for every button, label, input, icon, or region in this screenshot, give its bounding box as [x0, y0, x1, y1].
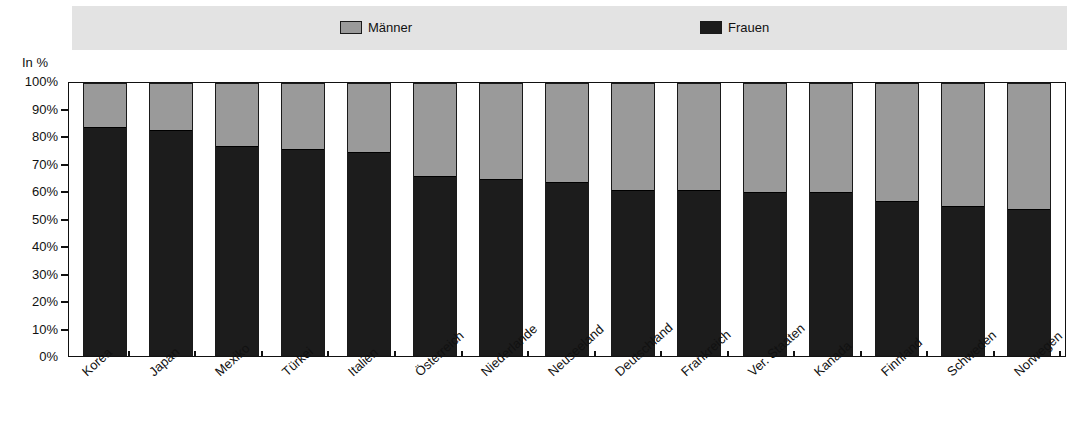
x-axis-tick-mark	[926, 351, 928, 357]
bar-column[interactable]	[545, 83, 589, 356]
y-axis-tick-label: 80%	[32, 129, 58, 144]
y-axis-tick-label: 20%	[32, 294, 58, 309]
bar-segment-frauen[interactable]	[216, 146, 258, 355]
bar-column[interactable]	[149, 83, 193, 356]
bar-column[interactable]	[83, 83, 127, 356]
x-axis-tick-mark	[128, 351, 130, 357]
legend-item-maenner: Männer	[340, 19, 412, 35]
bar-segment-maenner[interactable]	[545, 83, 589, 356]
bar-segment-maenner[interactable]	[347, 83, 391, 356]
bar-segment-frauen[interactable]	[414, 176, 456, 355]
bar-column[interactable]	[611, 83, 655, 356]
bar-column[interactable]	[941, 83, 985, 356]
bar-segment-frauen[interactable]	[1008, 209, 1050, 355]
legend-item-frauen: Frauen	[700, 19, 769, 35]
y-axis-tick-label: 60%	[32, 184, 58, 199]
y-axis-tick-label: 40%	[32, 239, 58, 254]
bar-segment-maenner[interactable]	[941, 83, 985, 356]
x-axis-tick-mark	[194, 351, 196, 357]
bar-segment-maenner[interactable]	[1007, 83, 1051, 356]
legend-swatch-maenner-icon	[340, 21, 362, 34]
y-axis-tick-mark	[61, 191, 68, 193]
bar-column[interactable]	[281, 83, 325, 356]
legend-swatch-frauen-icon	[700, 21, 722, 34]
legend-label-maenner: Männer	[368, 21, 412, 34]
bar-column[interactable]	[413, 83, 457, 356]
y-axis-tick-mark	[61, 301, 68, 303]
bar-column[interactable]	[677, 83, 721, 356]
bar-segment-maenner[interactable]	[743, 83, 787, 356]
x-axis-tick-mark	[527, 351, 529, 357]
bar-segment-maenner[interactable]	[413, 83, 457, 356]
y-axis-tick-label: 10%	[32, 322, 58, 337]
y-axis-tick-mark	[61, 219, 68, 221]
x-axis-tick-mark	[793, 351, 795, 357]
bar-segment-maenner[interactable]	[611, 83, 655, 356]
bar-segment-frauen[interactable]	[744, 192, 786, 355]
legend-band: Männer Frauen	[72, 6, 1067, 50]
bar-segment-frauen[interactable]	[678, 190, 720, 355]
bar-segment-frauen[interactable]	[480, 179, 522, 355]
bar-segment-maenner[interactable]	[281, 83, 325, 356]
x-axis-tick-mark	[394, 351, 396, 357]
bar-segment-frauen[interactable]	[876, 201, 918, 355]
plot-area	[68, 82, 1066, 357]
y-axis-tick-mark	[61, 109, 68, 111]
y-axis-tick-mark	[61, 164, 68, 166]
bar-segment-frauen[interactable]	[150, 130, 192, 355]
bar-column[interactable]	[1007, 83, 1051, 356]
bar-segment-frauen[interactable]	[810, 192, 852, 355]
bar-segment-frauen[interactable]	[546, 182, 588, 355]
bar-segment-frauen[interactable]	[612, 190, 654, 355]
bar-segment-maenner[interactable]	[149, 83, 193, 356]
bar-segment-maenner[interactable]	[479, 83, 523, 356]
bar-column[interactable]	[875, 83, 919, 356]
bar-segment-maenner[interactable]	[215, 83, 259, 356]
bar-column[interactable]	[809, 83, 853, 356]
y-axis-tick-mark	[61, 136, 68, 138]
y-axis-tick-mark	[61, 246, 68, 248]
x-axis-tick-mark	[660, 351, 662, 357]
bar-segment-maenner[interactable]	[875, 83, 919, 356]
x-axis-tick-mark	[727, 351, 729, 357]
x-axis-tick-mark	[261, 351, 263, 357]
bar-segment-frauen[interactable]	[282, 149, 324, 355]
bar-column[interactable]	[215, 83, 259, 356]
x-axis-tick-mark	[461, 351, 463, 357]
x-axis-tick-mark	[1059, 351, 1061, 357]
bar-segment-frauen[interactable]	[942, 206, 984, 355]
y-axis-unit-label: In %	[22, 55, 48, 70]
y-axis-tick-mark	[61, 274, 68, 276]
x-axis-tick-mark	[594, 351, 596, 357]
y-axis-tick-mark	[61, 329, 68, 331]
bar-column[interactable]	[743, 83, 787, 356]
bars-container	[69, 83, 1065, 356]
x-axis-tick-mark	[860, 351, 862, 357]
bar-segment-maenner[interactable]	[83, 83, 127, 356]
legend-label-frauen: Frauen	[728, 21, 769, 34]
x-axis-tick-mark	[993, 351, 995, 357]
y-axis-tick-label: 70%	[32, 157, 58, 172]
bar-column[interactable]	[479, 83, 523, 356]
bar-segment-frauen[interactable]	[348, 152, 390, 355]
x-axis-labels: KoreaJapanMexikoTürkeiItalienÖsterreichN…	[0, 360, 1066, 437]
x-axis-tick-mark	[327, 351, 329, 357]
y-axis-tick-label: 30%	[32, 267, 58, 282]
bar-column[interactable]	[347, 83, 391, 356]
y-axis-tick-label: 100%	[25, 74, 58, 89]
y-axis-tick-label: 50%	[32, 212, 58, 227]
bar-segment-maenner[interactable]	[809, 83, 853, 356]
bar-segment-maenner[interactable]	[677, 83, 721, 356]
y-axis-tick-label: 90%	[32, 102, 58, 117]
bar-segment-frauen[interactable]	[84, 127, 126, 355]
